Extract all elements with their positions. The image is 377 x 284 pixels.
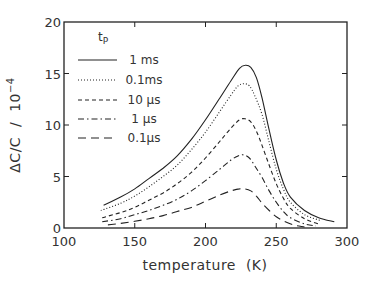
legend-label-4: 0.1μs: [128, 131, 161, 145]
legend-title: tP: [98, 30, 109, 46]
legend-label-2: 10 μs: [128, 93, 161, 107]
series-line-4: [108, 189, 305, 227]
y-tick-label: 20: [44, 15, 61, 30]
x-tick-label: 100: [52, 234, 77, 249]
y-tick-label: 5: [53, 170, 61, 185]
y-tick-label: 10: [44, 118, 61, 133]
y-tick-label: 15: [44, 67, 61, 82]
svg-text:ΔC/C / 10−4: ΔC/C / 10−4: [5, 77, 23, 172]
y-axis-label: ΔC/C / 10−4: [5, 77, 23, 172]
legend: tP 1 ms0.1ms10 μs1 μs0.1μs: [78, 30, 163, 145]
x-tick-label: 150: [122, 234, 147, 249]
legend-label-1: 0.1ms: [125, 73, 162, 87]
plot-curves: [101, 65, 334, 227]
y-axis-label-main: ΔC/C / 10: [7, 93, 23, 173]
tick-labels: 10015020025030005101520: [44, 15, 359, 249]
legend-label-3: 1 μs: [131, 112, 156, 126]
x-tick-label: 300: [335, 234, 360, 249]
legend-label-0: 1 ms: [129, 53, 158, 67]
axis-ticks: [64, 22, 347, 228]
x-axis-label: temperature (K): [142, 257, 267, 273]
x-tick-label: 200: [193, 234, 218, 249]
x-tick-label: 250: [264, 234, 289, 249]
chart: 10015020025030005101520 temperature (K) …: [0, 0, 377, 284]
y-tick-label: 0: [53, 221, 61, 236]
y-axis-label-exponent: −4: [5, 77, 16, 93]
plot-frame: [64, 22, 347, 228]
